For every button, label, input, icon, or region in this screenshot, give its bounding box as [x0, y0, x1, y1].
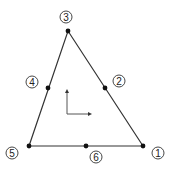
node-labels: 123456: [6, 11, 164, 163]
nodes: [27, 29, 146, 149]
node-label-5: 5: [6, 147, 18, 159]
node-5: [27, 144, 32, 149]
svg-text:6: 6: [93, 152, 99, 163]
svg-text:2: 2: [116, 76, 122, 87]
node-4: [46, 86, 51, 91]
svg-text:4: 4: [29, 77, 35, 88]
node-label-3: 3: [60, 11, 72, 23]
svg-text:3: 3: [63, 12, 69, 23]
local-axes: [65, 89, 92, 116]
node-label-2: 2: [113, 75, 125, 87]
svg-text:5: 5: [9, 148, 15, 159]
node-label-1: 1: [152, 147, 164, 159]
arrow-up-icon: [65, 89, 69, 93]
svg-text:1: 1: [155, 148, 161, 159]
node-label-6: 6: [90, 151, 102, 163]
node-2: [103, 86, 108, 91]
node-1: [141, 144, 146, 149]
arrow-right-icon: [88, 112, 92, 116]
node-3: [66, 29, 71, 34]
node-label-4: 4: [26, 76, 38, 88]
triangle-element-diagram: 123456: [0, 0, 171, 177]
node-6: [84, 144, 89, 149]
